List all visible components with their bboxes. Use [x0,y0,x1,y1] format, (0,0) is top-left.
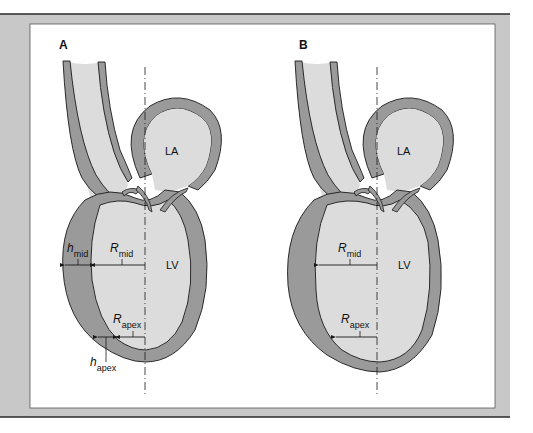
left-ventricle-label: LV [166,259,179,271]
panel-a-label: A [59,38,68,52]
panel-b-label: B [299,38,308,52]
left-ventricle-label: LV [398,259,411,271]
left-ventricle-cavity [315,200,430,362]
heart-diagram-figure: A LA LV hmid Rmid Rapex [0,0,533,433]
left-atrium-label: LA [165,145,179,157]
left-atrium-label: LA [397,145,411,157]
